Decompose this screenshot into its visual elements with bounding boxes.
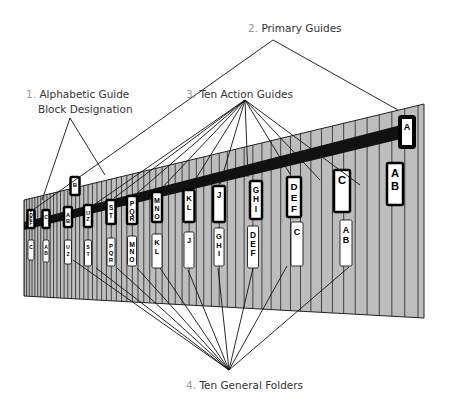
general-folder-tab: AB	[43, 240, 49, 262]
action-guide-tab: J	[213, 186, 225, 222]
general-folder-tab: AB	[340, 220, 352, 266]
svg-text:C: C	[44, 214, 48, 220]
svg-text:O: O	[154, 213, 160, 220]
primary-guide-tab: A	[400, 117, 414, 147]
svg-text:F: F	[250, 249, 255, 258]
general-folder-tab: C	[28, 240, 34, 260]
general-folder-tab: DEF	[248, 226, 259, 268]
action-guide-tab: UZ	[84, 205, 92, 227]
svg-text:S: S	[109, 204, 113, 211]
svg-text:C: C	[338, 174, 346, 186]
action-guide-tab: AB	[387, 163, 403, 205]
svg-text:M: M	[129, 241, 135, 248]
svg-text:J: J	[217, 190, 222, 200]
action-guide-tab: MNO	[152, 192, 162, 222]
svg-text:E: E	[250, 240, 256, 249]
svg-text:K: K	[186, 194, 192, 203]
general-folder-tab: KL	[152, 234, 162, 268]
action-guide-tab: AB	[64, 207, 72, 227]
svg-text:J: J	[187, 236, 191, 245]
svg-text:C: C	[29, 244, 33, 250]
label-general-folders: 4. Ten General Folders	[186, 379, 303, 392]
svg-text:L: L	[187, 203, 192, 212]
action-guide-tab: GHI	[250, 181, 262, 219]
svg-text:P: P	[130, 200, 135, 207]
action-guide-tab: KL	[184, 190, 195, 222]
svg-text:L: L	[155, 247, 160, 256]
action-guide-tab: ST	[107, 200, 116, 224]
svg-text:N: N	[154, 205, 159, 212]
svg-text:A: A	[404, 122, 411, 132]
svg-text:B: B	[73, 182, 78, 188]
svg-text:M: M	[154, 197, 160, 204]
svg-text:T: T	[109, 212, 113, 219]
svg-text:E: E	[291, 192, 298, 203]
svg-text:D: D	[250, 231, 256, 240]
svg-text:R: R	[129, 215, 134, 222]
action-guide-tab: PQR	[127, 196, 137, 224]
general-folder-tab: ST	[85, 240, 92, 266]
svg-text:Q: Q	[109, 250, 114, 256]
svg-text:O: O	[129, 256, 134, 263]
action-guide-tab: DEF	[287, 177, 301, 217]
general-folder-tab: GHI	[214, 228, 224, 266]
svg-text:B: B	[343, 235, 350, 245]
svg-text:I: I	[255, 204, 257, 214]
svg-text:A: A	[343, 225, 350, 235]
general-folder-tab: UZ	[65, 240, 72, 264]
svg-text:A: A	[66, 212, 70, 218]
svg-text:S: S	[86, 244, 90, 250]
label-action-guides: 3. Ten Action Guides	[186, 88, 293, 101]
svg-text:F: F	[291, 203, 297, 214]
filing-system-diagram: BADEFCABUZSTPQRMNOKLJGHIDEFCABCABUZSTPQR…	[0, 0, 451, 404]
svg-text:C: C	[294, 227, 301, 237]
svg-text:N: N	[130, 248, 135, 255]
svg-text:Z: Z	[86, 216, 90, 222]
svg-text:B: B	[391, 180, 399, 192]
svg-text:U: U	[86, 210, 90, 216]
label-block-designation: Block Designation	[38, 103, 133, 116]
action-guide-tab: C	[43, 210, 50, 228]
svg-text:I: I	[218, 249, 220, 258]
general-folder-tab: J	[184, 232, 194, 268]
svg-text:U: U	[66, 244, 70, 250]
general-folder-tab: PQR	[107, 238, 115, 266]
svg-text:B: B	[66, 218, 70, 224]
svg-text:F: F	[29, 220, 32, 226]
svg-text:B: B	[44, 250, 48, 256]
label-alphabetic-guide: 1. Alphabetic Guide	[26, 88, 129, 101]
svg-text:R: R	[109, 257, 114, 263]
general-folder-tab: MNO	[128, 236, 137, 266]
svg-text:A: A	[391, 167, 399, 179]
action-guide-tab: DEF	[28, 210, 35, 228]
svg-text:P: P	[109, 243, 113, 249]
svg-text:D: D	[290, 181, 297, 192]
general-folder-tab: C	[291, 222, 303, 266]
label-primary-guides: 2. Primary Guides	[248, 22, 342, 35]
